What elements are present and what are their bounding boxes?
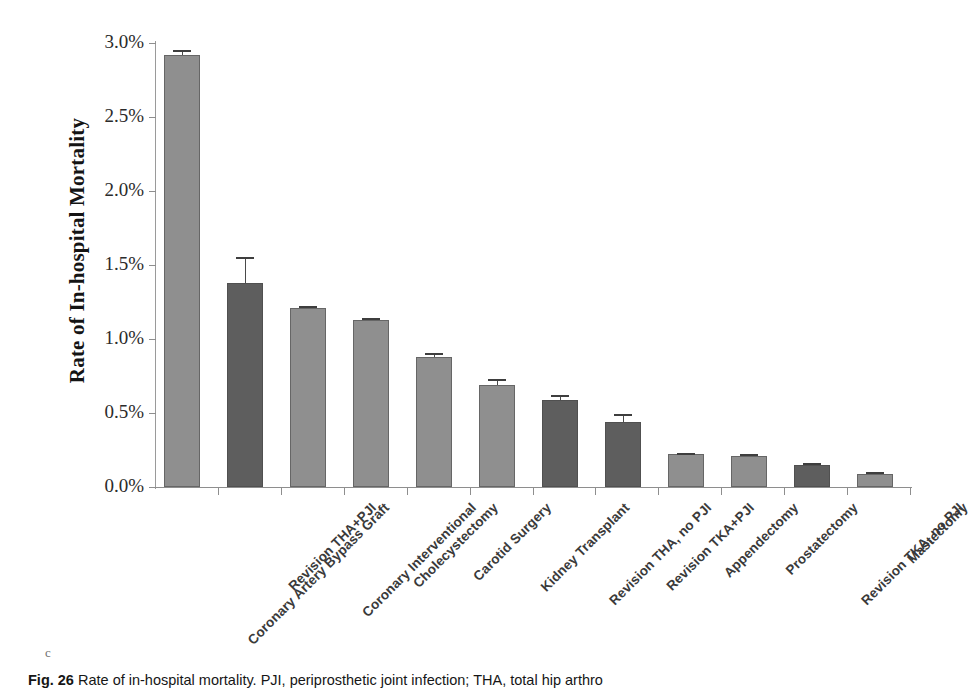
x-axis-tick [910, 488, 911, 495]
stray-mark: c [45, 645, 51, 661]
error-bar-cap [236, 257, 254, 259]
error-bar-cap [803, 463, 821, 465]
x-axis-label-2[interactable]: Revision THA+PJI [286, 500, 380, 594]
y-axis-tick-label: 1.5% [60, 253, 144, 275]
y-axis-tick-label: 2.0% [60, 179, 144, 201]
figure-caption-text: Rate of in-hospital mortality. PJI, peri… [78, 672, 603, 688]
error-bar-cap [362, 318, 380, 320]
y-axis-tick [149, 265, 156, 266]
error-bar-cap [299, 306, 317, 308]
bar[interactable] [416, 357, 452, 487]
x-axis-tick [407, 488, 408, 495]
error-bar-cap [740, 454, 758, 456]
bar[interactable] [794, 465, 830, 487]
y-axis-tick [149, 191, 156, 192]
y-axis-tick-label: 0.0% [60, 475, 144, 497]
bar[interactable] [227, 283, 263, 487]
x-axis-tick [784, 488, 785, 495]
figure-caption: Fig. 26 Rate of in-hospital mortality. P… [28, 672, 908, 688]
x-axis-label-6[interactable]: Kidney Transplant [538, 500, 633, 595]
y-axis-tick [149, 487, 156, 488]
bar[interactable] [353, 320, 389, 487]
bar[interactable] [290, 308, 326, 487]
bar[interactable] [605, 422, 641, 487]
x-axis-label-1[interactable]: Coronary Artery Bypass Graft [245, 500, 393, 648]
x-axis-label-12[interactable]: Mastectomy [904, 500, 970, 566]
y-axis-tick [149, 339, 156, 340]
error-bar-cap [551, 395, 569, 397]
error-bar-stem [245, 257, 246, 283]
x-axis-tick [218, 488, 219, 495]
x-axis-tick [847, 488, 848, 495]
x-axis-tick [721, 488, 722, 495]
x-axis-line [155, 487, 912, 488]
error-bar-cap [614, 414, 632, 416]
bar[interactable] [857, 474, 893, 487]
y-axis-tick-labels: 0.0%0.5%1.0%1.5%2.0%2.5%3.0% [52, 0, 144, 540]
y-axis-tick [149, 413, 156, 414]
x-axis-tick [595, 488, 596, 495]
y-axis-tick-label: 2.5% [60, 105, 144, 127]
y-axis-tick [149, 43, 156, 44]
y-axis-tick-label: 3.0% [60, 31, 144, 53]
error-bar-cap [488, 379, 506, 381]
y-axis-tick-label: 0.5% [60, 401, 144, 423]
error-bar-cap [425, 353, 443, 355]
x-axis-tick [658, 488, 659, 495]
x-axis-tick [470, 488, 471, 495]
bar[interactable] [479, 385, 515, 487]
error-bar-cap [866, 472, 884, 474]
figure-number: Fig. 26 [28, 672, 74, 688]
bar[interactable] [542, 400, 578, 487]
error-bar-cap [173, 50, 191, 52]
bar[interactable] [164, 55, 200, 487]
bar[interactable] [731, 456, 767, 487]
plot-area [155, 43, 910, 487]
x-axis-tick [344, 488, 345, 495]
error-bar-cap [677, 453, 695, 455]
bar[interactable] [668, 454, 704, 487]
y-axis-tick-label: 1.0% [60, 327, 144, 349]
y-axis-tick [149, 117, 156, 118]
x-axis-tick [281, 488, 282, 495]
x-axis-tick [533, 488, 534, 495]
